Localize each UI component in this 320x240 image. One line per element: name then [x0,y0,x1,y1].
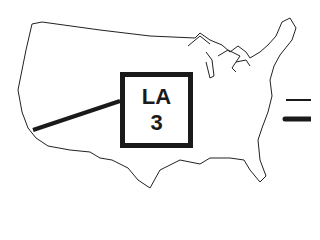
city-label-box: LA 3 [120,72,193,148]
city-code: LA [142,84,171,110]
city-value: 3 [150,110,162,136]
